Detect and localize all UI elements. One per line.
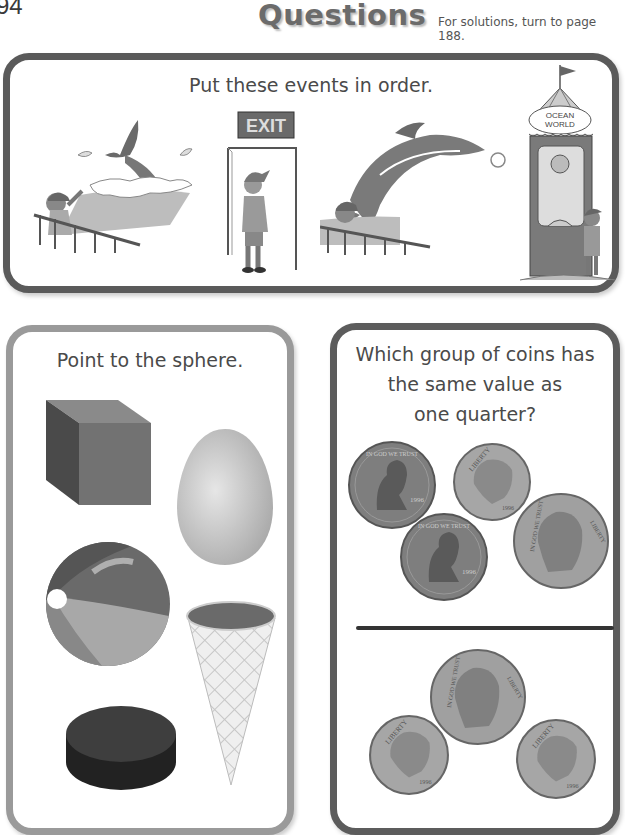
cube-shape[interactable] [36,395,161,510]
page-title: Questions [258,0,426,32]
coin-year: 1996 [410,496,425,504]
coin-legend: IN GOD WE TRUST [418,523,470,529]
coin-year: 1996 [419,779,431,785]
sphere-panel: Point to the sphere. [6,325,294,835]
sequence-panel: Put these events in order. EXIT [3,53,619,293]
coin-legend: IN GOD WE TRUST [366,451,418,457]
sphere-heading: Point to the sphere. [13,345,287,375]
coins-heading-line-1: Which group of coins has [337,339,613,369]
beach-ball-shape[interactable] [43,542,173,667]
cone-shape[interactable] [185,600,280,790]
dolphin-jump-illustration[interactable] [320,105,510,255]
egg-shape[interactable] [173,427,278,567]
whale-splash-illustration[interactable] [20,115,210,255]
solutions-note: For solutions, turn to page 188. [438,15,625,43]
coin-group-b[interactable]: IN GOD WE TRUST LIBERTY LIBERTY 1996 LIB… [337,648,613,818]
coins-heading-line-2: the same value as [337,369,613,399]
page-number: 94 [0,0,23,20]
nickel-coin: IN GOD WE TRUST LIBERTY [512,492,610,590]
svg-text:EXIT: EXIT [246,116,286,136]
coins-heading-line-3: one quarter? [337,399,613,429]
penny-coin: IN GOD WE TRUST 1996 [399,512,489,602]
coin-year: 1996 [566,783,578,789]
dime-coin: LIBERTY 1996 [368,714,450,796]
coins-panel: Which group of coins has the same value … [330,323,620,835]
ticket-booth-illustration[interactable]: OCEAN WORLD [520,60,615,290]
svg-text:WORLD: WORLD [545,120,575,129]
coin-group-a[interactable]: IN GOD WE TRUST 1996 LIBERTY 1996 IN GOD… [337,440,613,610]
dime-coin: LIBERTY 1996 [515,718,597,800]
svg-text:OCEAN: OCEAN [546,111,575,120]
coins-heading: Which group of coins has the same value … [337,339,613,429]
group-divider [356,626,614,630]
hockey-puck-shape[interactable] [61,702,181,797]
exit-door-illustration[interactable]: EXIT [220,110,310,290]
coin-year: 1996 [462,568,477,576]
